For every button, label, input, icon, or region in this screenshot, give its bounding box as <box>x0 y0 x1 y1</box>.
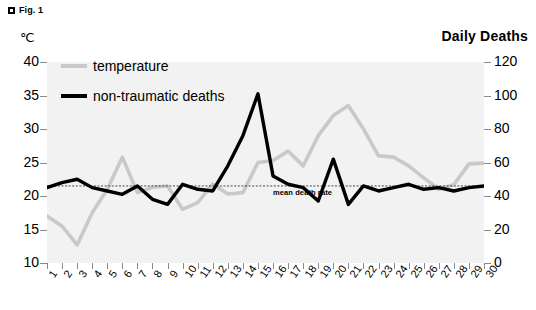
right-axis-tick-mark <box>484 129 491 130</box>
right-axis-tick-mark <box>484 62 491 63</box>
x-axis: 1234567891011121314151617181920212223242… <box>47 263 484 310</box>
left-axis-tick-label: 20 <box>23 188 47 202</box>
x-axis-tick-label: 29 <box>468 263 485 280</box>
x-axis-tick-mark <box>213 263 214 269</box>
mean-death-rate-label: mean death rate <box>273 188 332 197</box>
left-axis-tick-label: 40 <box>23 54 47 68</box>
left-axis-tick-mark <box>40 62 47 63</box>
right-axis-tick-mark <box>484 230 491 231</box>
legend-label-temperature: temperature <box>93 58 168 74</box>
x-axis-tick-label: 8 <box>151 268 164 280</box>
x-axis-tick-mark <box>424 263 425 269</box>
x-axis-tick-label: 13 <box>227 263 244 280</box>
left-axis-tick-mark <box>40 196 47 197</box>
figure-root: Fig. 1 ℃ Daily Deaths temperature non-tr… <box>0 0 536 310</box>
x-axis-tick-mark <box>409 263 410 269</box>
right-axis-tick-mark <box>484 96 491 97</box>
x-axis-tick-label: 14 <box>242 263 259 280</box>
legend-label-deaths: non-traumatic deaths <box>93 88 225 104</box>
x-axis-tick-label: 1 <box>46 268 59 280</box>
left-axis-tick-mark <box>40 230 47 231</box>
x-axis-tick-label: 25 <box>408 263 425 280</box>
bullet-square-icon <box>8 7 15 14</box>
x-axis-tick-label: 16 <box>272 263 289 280</box>
x-axis-tick-label: 28 <box>453 263 470 280</box>
x-axis-tick-label: 7 <box>136 268 149 280</box>
right-axis-tick-label: 100 <box>484 88 517 102</box>
left-axis-tick-label: 35 <box>23 88 47 102</box>
right-axis-tick-label: 120 <box>484 54 517 68</box>
left-axis-tick-label: 30 <box>23 121 47 135</box>
x-axis-tick-label: 17 <box>287 263 304 280</box>
series-layer <box>47 94 484 245</box>
x-axis-tick-mark <box>183 263 184 269</box>
x-axis-tick-label: 27 <box>438 263 455 280</box>
right-axis-tick-label: 40 <box>484 188 510 202</box>
right-axis-tick-mark <box>484 163 491 164</box>
x-axis-tick-label: 2 <box>61 268 74 280</box>
plot-area: temperature non-traumatic deaths mean de… <box>47 62 484 263</box>
legend-item-deaths: non-traumatic deaths <box>61 88 225 104</box>
left-axis-tick-label: 10 <box>23 255 47 269</box>
x-axis-tick-label: 10 <box>182 263 199 280</box>
deaths-swatch-icon <box>61 94 87 98</box>
x-axis-tick-label: 4 <box>91 268 104 280</box>
x-axis-tick-mark <box>379 263 380 269</box>
x-axis-tick-label: 24 <box>393 263 410 280</box>
left-axis-tick-mark <box>40 96 47 97</box>
x-axis-tick-label: 9 <box>167 268 180 280</box>
temperature-swatch-icon <box>61 64 87 68</box>
x-axis-tick-mark <box>439 263 440 269</box>
left-axis-tick-label: 15 <box>23 222 47 236</box>
x-axis-tick-label: 22 <box>362 263 379 280</box>
x-axis-tick-label: 18 <box>302 263 319 280</box>
figure-marker: Fig. 1 <box>8 5 43 15</box>
left-axis-tick-label: 25 <box>23 155 47 169</box>
left-axis-tick-mark <box>40 129 47 130</box>
x-axis-tick-label: 15 <box>257 263 274 280</box>
right-axis-tick-label: 80 <box>484 121 510 135</box>
x-axis-tick-label: 23 <box>378 263 395 280</box>
left-axis-unit-label: ℃ <box>20 30 35 45</box>
x-axis-tick-label: 11 <box>197 264 213 280</box>
left-axis-tick-mark <box>40 263 47 264</box>
x-axis-tick-label: 26 <box>423 263 440 280</box>
x-axis-tick-mark <box>394 263 395 269</box>
right-axis-tick-label: 60 <box>484 155 510 169</box>
right-axis-tick-mark <box>484 196 491 197</box>
x-axis-tick-label: 12 <box>212 263 229 280</box>
x-axis-tick-mark <box>168 263 169 269</box>
legend-item-temperature: temperature <box>61 58 168 74</box>
x-axis-tick-mark <box>198 263 199 269</box>
left-axis-tick-mark <box>40 163 47 164</box>
right-axis-tick-label: 20 <box>484 222 510 236</box>
figure-number-label: Fig. 1 <box>19 5 43 15</box>
non-traumatic-deaths-line <box>47 94 484 205</box>
x-axis-tick-label: 6 <box>121 268 134 280</box>
x-axis-tick-label: 3 <box>76 268 89 280</box>
right-axis-title: Daily Deaths <box>442 28 528 44</box>
x-axis-tick-label: 5 <box>106 268 119 280</box>
